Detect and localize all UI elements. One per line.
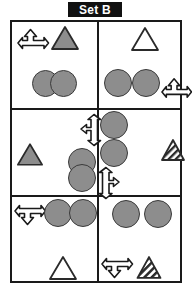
circle-gray [112, 200, 140, 228]
set-title-label: Set B [79, 4, 111, 16]
circle-gray [100, 111, 128, 139]
arrow-left-up-down [73, 114, 99, 146]
triangle-white [130, 26, 160, 52]
triangle-white [48, 255, 78, 281]
arrow-left-right-down [101, 254, 133, 280]
circle-gray [44, 199, 72, 227]
grid-cell-top-right [99, 22, 184, 109]
triangle-hatched [135, 255, 163, 280]
arrow-up-right-down [101, 167, 127, 199]
grid-cell-top-left [12, 22, 97, 109]
grid-cell-bottom-right [99, 197, 184, 284]
circle-gray [69, 199, 97, 227]
circle-gray [50, 70, 77, 97]
arrow-left-up-right [17, 28, 49, 54]
set-title-banner: Set B [68, 2, 122, 17]
cell-grid [10, 20, 182, 283]
circle-gray [68, 164, 96, 192]
circle-gray [104, 69, 132, 97]
circle-gray [144, 200, 172, 228]
grid-cell-bottom-left [12, 197, 97, 284]
triangle-gray [16, 142, 44, 167]
circle-gray [132, 69, 160, 97]
arrow-left-right-down [14, 201, 46, 227]
stimulus-panel: Set B [0, 0, 192, 289]
grid-cell-middle-left [12, 110, 97, 197]
arrow-left-up-right [161, 77, 192, 103]
triangle-gray [50, 25, 80, 51]
circle-gray [100, 139, 128, 167]
triangle-hatched [160, 138, 186, 162]
grid-cell-middle-right [99, 110, 184, 197]
